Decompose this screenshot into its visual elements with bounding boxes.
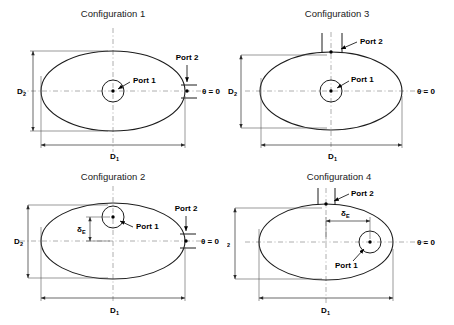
port-2-dot: [324, 202, 327, 205]
port-2-label: Port 2: [351, 189, 374, 198]
d2-subscript: 2: [20, 241, 23, 247]
port-2-leader: [341, 42, 357, 49]
panel-configuration-2: Configuration 2 Port 1 δ E Port 2 θ = 0 …: [0, 163, 227, 325]
port-1-dot: [329, 89, 332, 92]
panel-configuration-3: Configuration 3 Port 1 Port 2 θ = 0 D 2 …: [227, 0, 454, 163]
theta-zero-label: θ = 0: [201, 237, 219, 246]
panel-title: Configuration 2: [81, 171, 145, 182]
offset-subscript: E: [346, 213, 350, 219]
d1-subscript: 1: [116, 310, 119, 316]
theta-zero-label: θ = 0: [202, 87, 220, 96]
panel-title: Configuration 3: [305, 8, 369, 19]
d1-subscript: 1: [116, 156, 119, 162]
port-1-label: Port 1: [133, 76, 156, 85]
d1-subscript: 1: [327, 310, 330, 316]
d2-subscript: 2: [227, 242, 230, 248]
port-2-label: Port 2: [176, 53, 199, 62]
theta-zero-label: θ = 0: [417, 87, 435, 96]
port-1-dot: [111, 215, 114, 218]
configuration-figure: Configuration 1 Port 1 Port 2 θ = 0 D 2 …: [0, 0, 454, 325]
port-2-label: Port 2: [175, 204, 198, 213]
port-2-dot: [184, 239, 187, 242]
offset-subscript: E: [82, 229, 86, 235]
panel-title: Configuration 1: [81, 8, 145, 19]
port-2-label: Port 2: [360, 37, 383, 46]
port-1-dot: [111, 89, 114, 92]
theta-zero-label: θ = 0: [417, 238, 435, 247]
panel-configuration-4: Configuration 4 Port 2 Port 1 δ E θ = 0 …: [227, 163, 454, 325]
panel-configuration-1: Configuration 1 Port 1 Port 2 θ = 0 D 2 …: [0, 0, 227, 163]
port-2-dot: [185, 89, 188, 92]
port-1-label: Port 1: [335, 261, 358, 270]
port-1-leader: [353, 249, 364, 261]
port-2-leader: [334, 194, 349, 201]
port-2-dot: [329, 50, 332, 53]
port-1-leader: [337, 81, 349, 88]
panel-title: Configuration 4: [307, 171, 371, 182]
d1-subscript: 1: [334, 156, 337, 162]
d2-subscript: 2: [23, 91, 26, 97]
port-1-dot: [368, 240, 371, 243]
port-1-label: Port 1: [351, 75, 374, 84]
d2-subscript: 2: [234, 91, 237, 97]
port-1-label: Port 1: [136, 222, 159, 231]
